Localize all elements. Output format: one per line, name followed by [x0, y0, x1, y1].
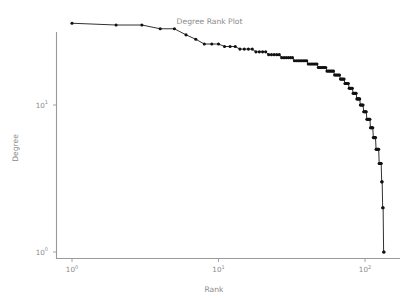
data-point — [343, 78, 346, 81]
data-point — [278, 53, 281, 56]
data-point — [184, 33, 187, 36]
data-point — [223, 45, 226, 48]
data-point — [381, 180, 384, 183]
degree-rank-plot: Degree Rank Plot 100101102 100101 Rank D… — [0, 0, 419, 303]
x-axis-tick-labels: 100101102 — [66, 264, 371, 274]
data-point — [347, 82, 350, 85]
data-point — [358, 97, 361, 100]
data-point — [173, 27, 176, 30]
x-axis-label: Rank — [205, 285, 225, 294]
data-point — [251, 48, 254, 51]
data-point — [332, 70, 335, 73]
data-point — [380, 162, 383, 165]
figure-canvas: Degree Rank Plot 100101102 100101 Rank D… — [0, 0, 419, 303]
data-point — [234, 45, 237, 48]
data-point — [238, 48, 241, 51]
data-point — [315, 62, 318, 65]
x-axis-tick-marks — [72, 259, 365, 262]
x-tick-label: 100 — [66, 264, 78, 274]
data-point — [368, 118, 371, 121]
data-point — [243, 48, 246, 51]
y-axis-label: Degree — [11, 134, 20, 162]
chart-title: Degree Rank Plot — [177, 17, 243, 26]
data-point — [217, 42, 220, 45]
data-point — [338, 73, 341, 76]
data-point — [291, 56, 294, 59]
data-point — [355, 92, 358, 95]
data-point — [270, 53, 273, 56]
data-point — [264, 50, 267, 53]
data-point — [382, 206, 385, 209]
degree-series-markers — [70, 22, 385, 254]
data-point — [159, 27, 162, 30]
data-point — [70, 22, 73, 25]
data-point — [258, 50, 261, 53]
data-point — [365, 110, 368, 113]
data-point — [351, 87, 354, 90]
data-point — [194, 38, 197, 41]
data-point — [374, 136, 377, 139]
data-point — [115, 23, 118, 26]
x-tick-label: 102 — [359, 264, 371, 274]
data-point — [254, 50, 257, 53]
data-point — [362, 103, 365, 106]
y-axis-tick-marks — [53, 105, 56, 252]
degree-series-line — [72, 23, 384, 252]
data-point — [247, 48, 250, 51]
data-point — [229, 45, 232, 48]
data-point — [140, 23, 143, 26]
data-point — [261, 50, 264, 53]
x-tick-label: 101 — [212, 264, 224, 274]
data-point — [203, 42, 206, 45]
data-point — [305, 59, 308, 62]
y-tick-label: 101 — [36, 99, 48, 109]
data-point — [383, 250, 386, 253]
data-point — [371, 126, 374, 129]
y-axis-tick-labels: 100101 — [36, 99, 48, 256]
data-point — [324, 66, 327, 69]
y-tick-label: 100 — [36, 246, 48, 256]
data-point — [267, 53, 270, 56]
data-point — [377, 148, 380, 151]
data-point — [210, 42, 213, 45]
